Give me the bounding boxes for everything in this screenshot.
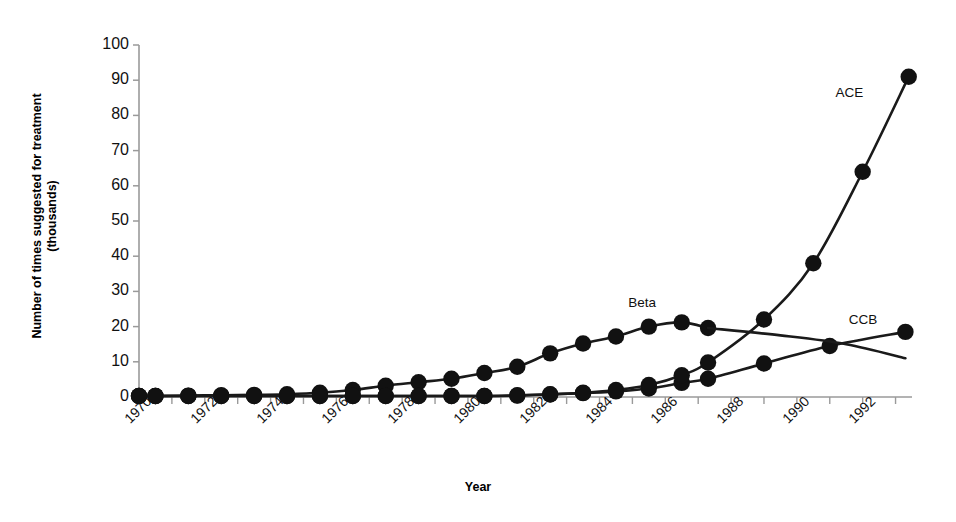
- data-point: [756, 355, 772, 371]
- data-point: [246, 388, 262, 404]
- y-tick-label: 30: [75, 281, 129, 299]
- series-label-ace: ACE: [836, 85, 864, 100]
- y-tick-label: 10: [75, 352, 129, 370]
- data-point: [542, 345, 558, 361]
- axis-lines: [139, 45, 912, 397]
- x-axis-title: Year: [0, 480, 956, 494]
- series-decline: [708, 328, 905, 358]
- series-label-ccb: CCB: [849, 312, 878, 327]
- line-chart-svg: [0, 0, 956, 522]
- data-point: [674, 367, 690, 383]
- data-point: [641, 318, 657, 334]
- data-point: [897, 324, 913, 340]
- y-tick-label: 80: [75, 105, 129, 123]
- data-point: [674, 314, 690, 330]
- data-point: [180, 388, 196, 404]
- data-point: [854, 164, 870, 180]
- data-point: [575, 335, 591, 351]
- data-point: [901, 68, 917, 84]
- data-point: [312, 388, 328, 404]
- y-tick-label: 20: [75, 317, 129, 335]
- data-point: [608, 328, 624, 344]
- series-label-beta: Beta: [628, 295, 656, 310]
- data-point: [443, 370, 459, 386]
- data-point: [700, 354, 716, 370]
- data-point: [509, 359, 525, 375]
- data-point: [608, 382, 624, 398]
- chart-container: Number of times suggested for treatment …: [0, 0, 956, 522]
- y-tick-label: 0: [75, 387, 129, 405]
- y-tick-label: 100: [75, 35, 129, 53]
- y-tick-marks: [133, 45, 139, 397]
- data-point: [805, 255, 821, 271]
- data-point: [443, 388, 459, 404]
- data-point: [575, 385, 591, 401]
- data-point: [378, 388, 394, 404]
- y-tick-label: 70: [75, 141, 129, 159]
- data-point: [756, 311, 772, 327]
- y-tick-label: 90: [75, 70, 129, 88]
- y-tick-label: 50: [75, 211, 129, 229]
- y-tick-label: 60: [75, 176, 129, 194]
- data-point: [509, 387, 525, 403]
- y-tick-label: 40: [75, 246, 129, 264]
- data-point: [641, 377, 657, 393]
- data-point: [700, 370, 716, 386]
- data-point: [476, 365, 492, 381]
